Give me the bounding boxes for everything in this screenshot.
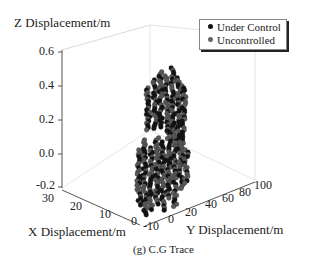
z-tick: 0.0 (39, 146, 54, 161)
x-tick: 20 (70, 199, 82, 214)
marker-dot-icon (208, 24, 213, 29)
y-tick: 40 (205, 197, 217, 212)
legend-item-under-control: Under Control (200, 20, 286, 33)
x-tick: 30 (42, 191, 54, 206)
x-tick: 0 (131, 214, 137, 229)
legend-item-uncontrolled: Uncontrolled (200, 33, 286, 46)
z-tick: 0.4 (39, 78, 54, 93)
y-tick: 60 (222, 191, 234, 206)
y-tick: 100 (254, 178, 272, 193)
y-tick: 20 (185, 205, 197, 220)
legend: Under Control Uncontrolled (199, 19, 287, 50)
x-tick: -10 (143, 219, 159, 234)
z-axis-label: Z Displacement/m (14, 15, 110, 31)
y-tick: 0 (168, 212, 174, 227)
marker-dot-icon (208, 37, 213, 42)
z-tick: 0.6 (39, 44, 54, 59)
figure-caption: (g) C.G Trace (133, 243, 194, 255)
x-axis-label: X Displacement/m (28, 224, 126, 240)
z-tick: 0.2 (39, 112, 54, 127)
y-axis-label: Y Displacement/m (186, 222, 283, 238)
y-tick: 80 (239, 185, 251, 200)
x-tick: 10 (99, 207, 111, 222)
scatter-points (135, 66, 191, 218)
